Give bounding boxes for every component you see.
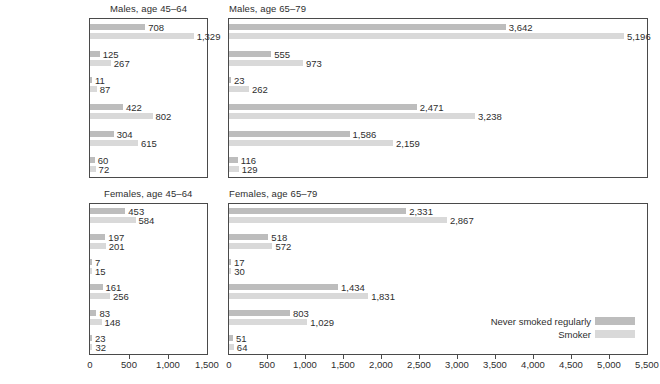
bar-value-males-65-79-c4-s1: 2,159 bbox=[396, 139, 420, 149]
x-tick-label-females-65-79-7: 3,500 bbox=[483, 360, 507, 370]
bar-males-45-64-c5-s0 bbox=[90, 157, 95, 163]
bar-females-65-79-c5-s1 bbox=[229, 344, 234, 350]
bar-value-males-45-64-c4-s1: 615 bbox=[141, 139, 157, 149]
bar-value-males-45-64-c4-s0: 304 bbox=[117, 130, 133, 140]
x-tick-label-females-65-79-6: 3,000 bbox=[445, 360, 469, 370]
bar-value-females-65-79-c3-s0: 1,434 bbox=[341, 283, 365, 293]
panel-title-males-45-64: Males, age 45–64 bbox=[110, 3, 187, 14]
plot-area-males-65-79 bbox=[228, 18, 648, 178]
x-tick-label-females-65-79-4: 2,000 bbox=[369, 360, 393, 370]
x-tick-label-females-65-79-0: 0 bbox=[226, 360, 231, 370]
x-tick-label-females-45-64-3: 1,500 bbox=[195, 360, 219, 370]
bar-value-females-45-64-c1-s1: 201 bbox=[109, 242, 125, 252]
legend-label-0: Never smoked regularly bbox=[491, 317, 591, 326]
x-tick-label-females-65-79-9: 4,500 bbox=[559, 360, 583, 370]
bar-males-45-64-c5-s1 bbox=[90, 166, 96, 172]
bar-value-females-65-79-c0-s1: 2,867 bbox=[450, 216, 474, 226]
bar-value-males-45-64-c1-s1: 267 bbox=[114, 59, 130, 69]
bar-males-45-64-c4-s1 bbox=[90, 140, 138, 146]
bar-males-45-64-c2-s1 bbox=[90, 86, 97, 92]
bar-value-males-65-79-c1-s0: 555 bbox=[274, 50, 290, 60]
bar-value-males-45-64-c3-s1: 802 bbox=[156, 112, 172, 122]
bar-value-males-65-79-c0-s1: 5,196 bbox=[627, 32, 651, 42]
bar-value-males-65-79-c3-s0: 2,471 bbox=[420, 103, 444, 113]
bar-value-females-45-64-c5-s1: 32 bbox=[95, 343, 106, 353]
bar-value-females-45-64-c4-s1: 148 bbox=[105, 318, 121, 328]
bar-value-males-45-64-c3-s0: 422 bbox=[126, 103, 142, 113]
x-tick-label-females-65-79-8: 4,000 bbox=[521, 360, 545, 370]
panel-title-males-65-79: Males, age 65–79 bbox=[229, 3, 306, 14]
bar-value-males-45-64-c0-s1: 1,329 bbox=[197, 32, 221, 42]
bar-females-65-79-c0-s1 bbox=[229, 217, 447, 223]
bar-females-45-64-c5-s0 bbox=[90, 335, 92, 341]
bar-value-females-65-79-c1-s1: 572 bbox=[275, 242, 291, 252]
bar-value-males-65-79-c4-s0: 1,586 bbox=[353, 130, 377, 140]
bar-females-45-64-c1-s1 bbox=[90, 243, 106, 249]
bar-males-65-79-c3-s0 bbox=[229, 104, 417, 110]
bar-males-45-64-c4-s0 bbox=[90, 131, 114, 137]
bar-males-65-79-c5-s0 bbox=[229, 157, 238, 163]
bar-females-45-64-c2-s1 bbox=[90, 268, 92, 274]
bar-females-65-79-c2-s0 bbox=[229, 259, 231, 265]
bar-value-males-65-79-c2-s1: 262 bbox=[252, 85, 268, 95]
bar-males-45-64-c1-s1 bbox=[90, 60, 111, 66]
bar-value-females-65-79-c2-s1: 30 bbox=[234, 267, 245, 277]
bar-females-45-64-c4-s1 bbox=[90, 319, 102, 325]
x-tick-label-females-45-64-0: 0 bbox=[87, 360, 92, 370]
bar-females-45-64-c3-s0 bbox=[90, 284, 103, 290]
bar-value-females-65-79-c5-s1: 64 bbox=[237, 343, 248, 353]
bar-females-65-79-c0-s0 bbox=[229, 208, 406, 214]
bar-value-males-45-64-c5-s1: 72 bbox=[99, 165, 110, 175]
bar-value-males-65-79-c2-s0: 23 bbox=[234, 76, 245, 86]
bar-females-45-64-c2-s0 bbox=[90, 259, 92, 265]
bar-males-65-79-c1-s1 bbox=[229, 60, 303, 66]
bar-males-45-64-c3-s1 bbox=[90, 113, 153, 119]
bar-males-65-79-c1-s0 bbox=[229, 51, 271, 57]
bar-value-males-65-79-c3-s1: 3,238 bbox=[478, 112, 502, 122]
plot-area-males-45-64 bbox=[89, 18, 208, 178]
bar-males-65-79-c5-s1 bbox=[229, 166, 239, 172]
bar-value-males-65-79-c0-s0: 3,642 bbox=[509, 23, 533, 33]
bar-females-45-64-c4-s0 bbox=[90, 310, 96, 316]
bar-males-65-79-c0-s1 bbox=[229, 33, 624, 39]
bar-females-65-79-c2-s1 bbox=[229, 268, 231, 274]
bar-value-females-65-79-c3-s1: 1,831 bbox=[371, 292, 395, 302]
x-tick-label-females-65-79-3: 1,500 bbox=[331, 360, 355, 370]
x-tick-label-females-65-79-5: 2,500 bbox=[407, 360, 431, 370]
x-tick-label-females-65-79-10: 5,000 bbox=[597, 360, 621, 370]
legend-label-1: Smoker bbox=[558, 330, 591, 339]
legend-item-1: Smoker bbox=[229, 330, 635, 338]
bar-males-45-64-c0-s1 bbox=[90, 33, 194, 39]
panel-title-females-45-64: Females, age 45–64 bbox=[104, 188, 192, 199]
bar-females-65-79-c3-s1 bbox=[229, 293, 368, 299]
bar-females-45-64-c0-s1 bbox=[90, 217, 136, 223]
bar-value-females-45-64-c0-s1: 584 bbox=[139, 216, 155, 226]
x-tick-label-females-45-64-2: 1,000 bbox=[156, 360, 180, 370]
legend-swatch-1 bbox=[595, 330, 635, 338]
bar-females-65-79-c3-s0 bbox=[229, 284, 338, 290]
bar-females-65-79-c1-s0 bbox=[229, 234, 268, 240]
bar-males-65-79-c2-s1 bbox=[229, 86, 249, 92]
bar-males-45-64-c1-s0 bbox=[90, 51, 100, 57]
bar-males-65-79-c2-s0 bbox=[229, 77, 231, 83]
bar-females-45-64-c0-s0 bbox=[90, 208, 125, 214]
panel-title-females-65-79: Females, age 65–79 bbox=[229, 188, 317, 199]
bar-females-45-64-c3-s1 bbox=[90, 293, 110, 299]
bar-value-females-45-64-c2-s1: 15 bbox=[95, 267, 106, 277]
bar-females-45-64-c1-s0 bbox=[90, 234, 105, 240]
bar-females-65-79-c1-s1 bbox=[229, 243, 272, 249]
legend-item-0: Never smoked regularly bbox=[229, 317, 635, 325]
x-tick-label-females-45-64-1: 500 bbox=[121, 360, 137, 370]
bar-value-males-45-64-c0-s0: 708 bbox=[148, 23, 164, 33]
bar-value-males-65-79-c5-s1: 129 bbox=[242, 165, 258, 175]
bar-value-males-45-64-c2-s1: 87 bbox=[100, 85, 111, 95]
bar-males-45-64-c2-s0 bbox=[90, 77, 92, 83]
bar-males-45-64-c0-s0 bbox=[90, 24, 145, 30]
bar-males-65-79-c4-s0 bbox=[229, 131, 350, 137]
legend-swatch-0 bbox=[595, 317, 635, 325]
bar-females-65-79-c4-s0 bbox=[229, 310, 290, 316]
bar-males-45-64-c3-s0 bbox=[90, 104, 123, 110]
bar-females-45-64-c5-s1 bbox=[90, 344, 92, 350]
bar-males-65-79-c0-s0 bbox=[229, 24, 506, 30]
x-tick-label-females-65-79-1: 500 bbox=[259, 360, 275, 370]
